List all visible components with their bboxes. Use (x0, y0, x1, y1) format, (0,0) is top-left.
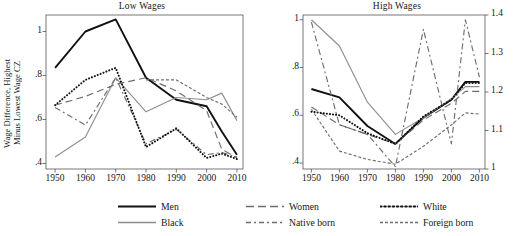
y-right-tick-1.2: 1.2 (491, 85, 518, 95)
y-tick-.6-low: .6 (14, 113, 42, 123)
y-right-tick-1.3: 1.3 (491, 47, 518, 57)
figure-root: Wage Difference, Highest Minus Lowest Wa… (0, 0, 518, 236)
legend-label-women: Women (289, 201, 319, 212)
legend-swatch-women (246, 202, 284, 211)
y-right-tick-1.1: 1.1 (491, 124, 518, 134)
series-line-foreign-born-low (146, 80, 237, 117)
legend-item-men[interactable]: Men (118, 199, 179, 213)
legend-swatch-black (118, 218, 156, 227)
y-tick-.8-low: .8 (14, 69, 42, 79)
legend-swatch-white (380, 202, 418, 211)
y-tick-1-high: 1 (271, 13, 299, 23)
y-tick-1-low: 1 (14, 25, 42, 35)
legend-label-men: Men (161, 201, 179, 212)
legend-item-foreign-born[interactable]: Foreign born (380, 215, 473, 229)
legend-label-black: Black (161, 217, 184, 228)
legend-swatch-men (118, 202, 156, 211)
legend-label-foreign-born: Foreign born (423, 217, 473, 228)
series-line-men-high (311, 82, 479, 144)
legend-label-native-born: Native born (289, 217, 335, 228)
series-line-black-high (311, 20, 479, 135)
legend-item-black[interactable]: Black (118, 215, 184, 229)
series-line-men-low (55, 19, 237, 154)
y-tick-.4-high: .4 (271, 156, 299, 166)
y-right-tick-1: 1 (491, 162, 518, 172)
y-tick-.8-high: .8 (271, 61, 299, 71)
legend: Men Black Women Native born White (118, 199, 478, 232)
legend-label-white: White (423, 201, 447, 212)
legend-swatch-foreign-born (380, 218, 418, 227)
series-line-foreign-born-high (311, 109, 479, 164)
y-axis-label-line1: Wage Difference, Highest (2, 58, 12, 147)
legend-item-women[interactable]: Women (246, 199, 319, 213)
x-tick-2010-high: 2010 (459, 173, 499, 183)
y-axis-label: Wage Difference, Highest Minus Lowest Wa… (2, 28, 22, 178)
legend-item-native-born[interactable]: Native born (246, 215, 335, 229)
series-line-native-born-low (55, 78, 237, 157)
y-right-tick-1.4: 1.4 (491, 8, 518, 18)
y-tick-.6-high: .6 (271, 108, 299, 118)
series-line-black-low (55, 78, 237, 157)
legend-item-white[interactable]: White (380, 199, 447, 213)
legend-swatch-native-born (246, 218, 284, 227)
series-line-white-low (55, 68, 237, 159)
y-tick-.4-low: .4 (14, 157, 42, 167)
x-tick-2010-low: 2010 (217, 173, 257, 183)
panel-title-low-wages: Low Wages (82, 1, 202, 11)
series-line-women-high (311, 91, 479, 144)
series-line-native-born-high (311, 20, 479, 167)
series-line-white-high (311, 83, 479, 144)
panel-title-high-wages: High Wages (337, 1, 457, 11)
series-line-women-low (55, 78, 237, 158)
